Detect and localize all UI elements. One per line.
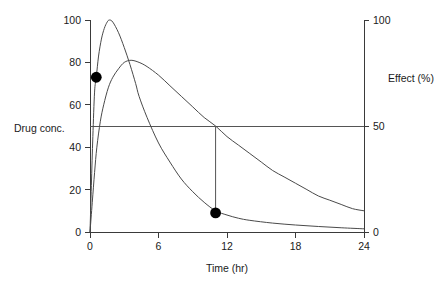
right-axis: 100 50 0 bbox=[364, 14, 391, 238]
chart-container: 100 80 60 40 20 0 Drug conc. 100 50 0 Ef… bbox=[0, 0, 446, 285]
left-ticklabel-80: 80 bbox=[69, 56, 81, 68]
left-ticklabel-40: 40 bbox=[69, 141, 81, 153]
data-layer bbox=[90, 20, 364, 232]
right-ticklabel-50: 50 bbox=[373, 120, 385, 132]
left-axis-title: Drug conc. bbox=[14, 122, 65, 134]
effect-curve bbox=[90, 60, 364, 232]
left-ticklabel-100: 100 bbox=[63, 14, 81, 26]
x-ticklabel-12: 12 bbox=[221, 240, 233, 252]
x-ticklabel-0: 0 bbox=[87, 240, 93, 252]
marker-late-dot bbox=[210, 208, 221, 219]
marker-early-dot bbox=[91, 72, 102, 83]
pk-pd-chart: 100 80 60 40 20 0 Drug conc. 100 50 0 Ef… bbox=[0, 0, 446, 285]
right-ticklabel-100: 100 bbox=[373, 14, 391, 26]
left-ticklabel-20: 20 bbox=[69, 184, 81, 196]
x-axis: 0 6 12 18 24 bbox=[87, 232, 370, 252]
left-ticklabel-0: 0 bbox=[75, 226, 81, 238]
left-ticklabel-60: 60 bbox=[69, 99, 81, 111]
x-ticklabel-18: 18 bbox=[290, 240, 302, 252]
left-axis: 100 80 60 40 20 0 bbox=[63, 14, 90, 238]
x-ticklabel-6: 6 bbox=[156, 240, 162, 252]
right-axis-title: Effect (%) bbox=[388, 72, 434, 84]
x-ticklabel-24: 24 bbox=[358, 240, 370, 252]
right-ticklabel-0: 0 bbox=[373, 226, 379, 238]
x-axis-title: Time (hr) bbox=[206, 262, 248, 274]
